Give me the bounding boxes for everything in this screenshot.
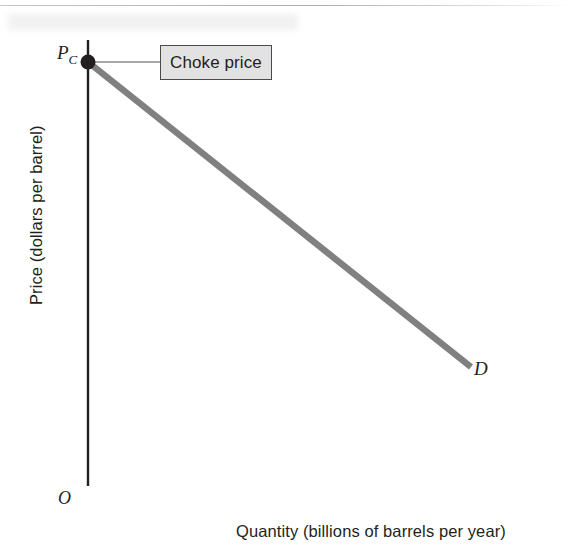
y-axis-title: Price (dollars per barrel): [27, 45, 46, 305]
choke-price-point-label-letter: P: [57, 42, 69, 63]
choke-price-callout-label: Choke price: [170, 53, 262, 73]
choke-price-callout-box: Choke price: [160, 45, 272, 80]
choke-price-point-label-subscript: C: [69, 52, 78, 67]
x-axis-title: Quantity (billions of barrels per year): [236, 522, 506, 541]
choke-price-point-label: PC: [57, 42, 77, 68]
choke-price-point-marker: [81, 55, 96, 70]
demand-curve-label: D: [474, 358, 488, 380]
plot-area: [0, 0, 571, 556]
demand-curve-line: [88, 62, 471, 367]
origin-label: O: [58, 488, 71, 509]
economics-demand-curve-figure: Price (dollars per barrel) Quantity (bil…: [0, 0, 571, 556]
